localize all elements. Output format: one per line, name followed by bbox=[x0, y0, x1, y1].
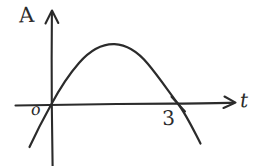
figure-canvas: A t o 3 bbox=[0, 0, 258, 166]
t-axis-label: t bbox=[240, 90, 249, 110]
sketch-drawing bbox=[0, 0, 258, 166]
t-axis-line bbox=[16, 103, 235, 106]
a-axis-label: A bbox=[18, 5, 34, 27]
root-label-3: 3 bbox=[161, 108, 175, 129]
parabola-curve bbox=[30, 44, 201, 147]
origin-label: o bbox=[30, 102, 41, 119]
a-axis-line bbox=[52, 13, 53, 166]
